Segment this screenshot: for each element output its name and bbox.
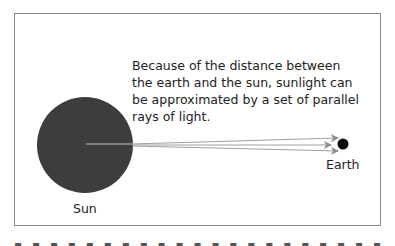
- caption-line-3: be approximated by a set of parallel: [132, 91, 372, 108]
- sun-icon: [37, 97, 133, 193]
- caption-line-2: the earth and the sun, sunlight can: [132, 74, 372, 91]
- earth-label: Earth: [326, 157, 360, 172]
- ray-top: [132, 138, 338, 144]
- ray-bottom: [132, 146, 338, 151]
- caption-line-4: rays of light.: [132, 108, 372, 125]
- sun-label: Sun: [73, 201, 97, 216]
- earth-icon: [338, 139, 349, 150]
- cropped-text-fragment: ▪ ▪ ▪ ▪ ▪ ▪ ▪ ▪ ▪ ▪ ▪ ▪ ▪ ▪ ▪ ▪ ▪ ▪ ▪ ▪ …: [14, 240, 384, 246]
- caption-line-1: Because of the distance between: [132, 57, 372, 74]
- diagram-caption: Because of the distance between the eart…: [132, 57, 372, 125]
